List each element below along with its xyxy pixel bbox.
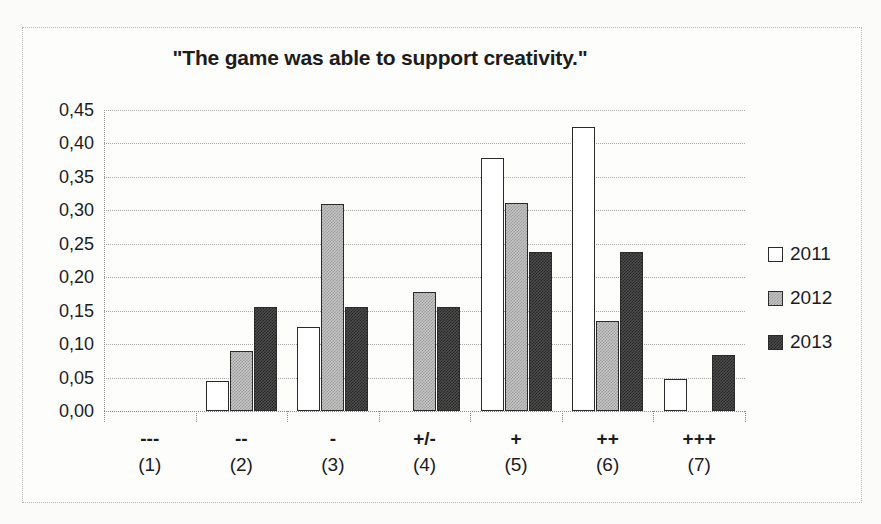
chart-figure: "The game was able to support creativity… xyxy=(0,0,881,524)
bar-2013-4 xyxy=(437,307,460,411)
legend-item-2011: 2011 xyxy=(768,232,868,276)
bar-2013-2 xyxy=(254,307,277,411)
bar-2012-2 xyxy=(230,351,253,411)
legend-item-2013: 2013 xyxy=(768,320,868,364)
bar-2011-5 xyxy=(481,158,504,412)
y-axis-tick-label: 0,10 xyxy=(30,334,94,355)
bar-2011-3 xyxy=(297,327,320,411)
x-axis-category-symbol: +/- xyxy=(379,427,471,451)
x-axis-category-7: +++(7) xyxy=(653,427,745,479)
legend-swatch-icon xyxy=(768,291,783,306)
x-axis-tick xyxy=(562,411,563,422)
bar-2012-5 xyxy=(505,203,528,411)
y-axis-tick-label: 0,20 xyxy=(30,267,94,288)
x-axis-category-number: (1) xyxy=(104,451,196,479)
y-axis-tick-label: 0,35 xyxy=(30,166,94,187)
bar-2013-5 xyxy=(529,252,552,411)
x-axis-category-symbol: -- xyxy=(195,427,287,451)
x-axis-category-4: +/-(4) xyxy=(379,427,471,479)
x-axis-category-symbol: + xyxy=(470,427,562,451)
bar-2011-7 xyxy=(664,379,687,411)
x-axis-category-3: -(3) xyxy=(287,427,379,479)
x-axis-category-1: ---(1) xyxy=(104,427,196,479)
legend-label: 2012 xyxy=(790,287,832,309)
x-axis-tick xyxy=(287,411,288,422)
bar-2012-4 xyxy=(413,292,436,411)
bar-2012-3 xyxy=(321,204,344,411)
bar-2013-6 xyxy=(620,252,643,411)
x-axis-tick xyxy=(196,411,197,422)
bar-2011-2 xyxy=(206,381,229,411)
x-axis-tick xyxy=(379,411,380,422)
legend-label: 2013 xyxy=(790,331,832,353)
y-axis-tick-label: 0,05 xyxy=(30,367,94,388)
y-axis-tick-label: 0,25 xyxy=(30,233,94,254)
x-axis-category-5: +(5) xyxy=(470,427,562,479)
bar-2011-6 xyxy=(572,127,595,411)
x-axis: ---(1)--(2)-(3)+/-(4)+(5)++(6)+++(7) xyxy=(104,411,745,511)
x-axis-category-number: (7) xyxy=(653,451,745,479)
chart-title: "The game was able to support creativity… xyxy=(0,46,760,70)
chart-legend: 201120122013 xyxy=(768,232,868,364)
x-axis-category-number: (2) xyxy=(195,451,287,479)
x-axis-category-number: (3) xyxy=(287,451,379,479)
x-axis-category-number: (6) xyxy=(562,451,654,479)
x-axis-tick xyxy=(653,411,654,422)
x-axis-tick xyxy=(470,411,471,422)
y-axis-tick-label: 0,40 xyxy=(30,133,94,154)
legend-swatch-icon xyxy=(768,335,783,350)
x-axis-category-2: --(2) xyxy=(195,427,287,479)
x-axis-category-symbol: ++ xyxy=(562,427,654,451)
bar-2013-3 xyxy=(345,307,368,411)
x-axis-category-symbol: +++ xyxy=(653,427,745,451)
x-axis-category-symbol: - xyxy=(287,427,379,451)
x-axis-category-6: ++(6) xyxy=(562,427,654,479)
x-axis-category-symbol: --- xyxy=(104,427,196,451)
bar-groups xyxy=(104,110,745,411)
y-axis-tick-label: 0,30 xyxy=(30,200,94,221)
y-axis-tick-label: 0,15 xyxy=(30,300,94,321)
bar-2012-6 xyxy=(596,321,619,411)
legend-swatch-icon xyxy=(768,247,783,262)
legend-label: 2011 xyxy=(790,243,831,265)
y-axis-tick-label: 0,45 xyxy=(30,100,94,121)
y-axis-tick-labels: 0,450,400,350,300,250,200,150,100,050,00 xyxy=(22,0,94,524)
y-axis-tick-label: 0,00 xyxy=(30,401,94,422)
bar-2013-7 xyxy=(712,355,735,411)
x-axis-category-number: (5) xyxy=(470,451,562,479)
legend-item-2012: 2012 xyxy=(768,276,868,320)
x-axis-tick xyxy=(745,411,746,422)
x-axis-tick xyxy=(104,411,105,422)
x-axis-category-number: (4) xyxy=(379,451,471,479)
